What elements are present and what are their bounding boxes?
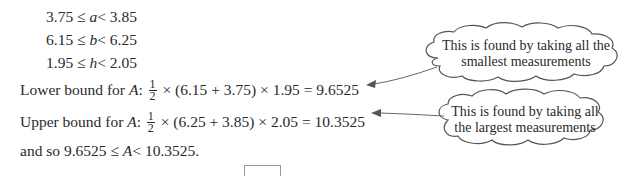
arrow-1 xyxy=(374,67,437,84)
callout-smallest: This is found by taking all the smallest… xyxy=(440,38,612,70)
callout-line: This is found by taking all the xyxy=(440,38,612,54)
callout-largest: This is found by taking all the largest … xyxy=(446,104,604,136)
partial-box-outline xyxy=(244,165,281,176)
arrowhead-1 xyxy=(366,80,376,88)
callout-line: smallest measurements xyxy=(440,54,612,70)
callout-line: This is found by taking all xyxy=(446,104,604,120)
arrowhead-2 xyxy=(371,109,381,117)
arrow-2 xyxy=(381,113,444,116)
callout-line: the largest measurements xyxy=(446,120,604,136)
callout-graphics xyxy=(0,0,633,176)
